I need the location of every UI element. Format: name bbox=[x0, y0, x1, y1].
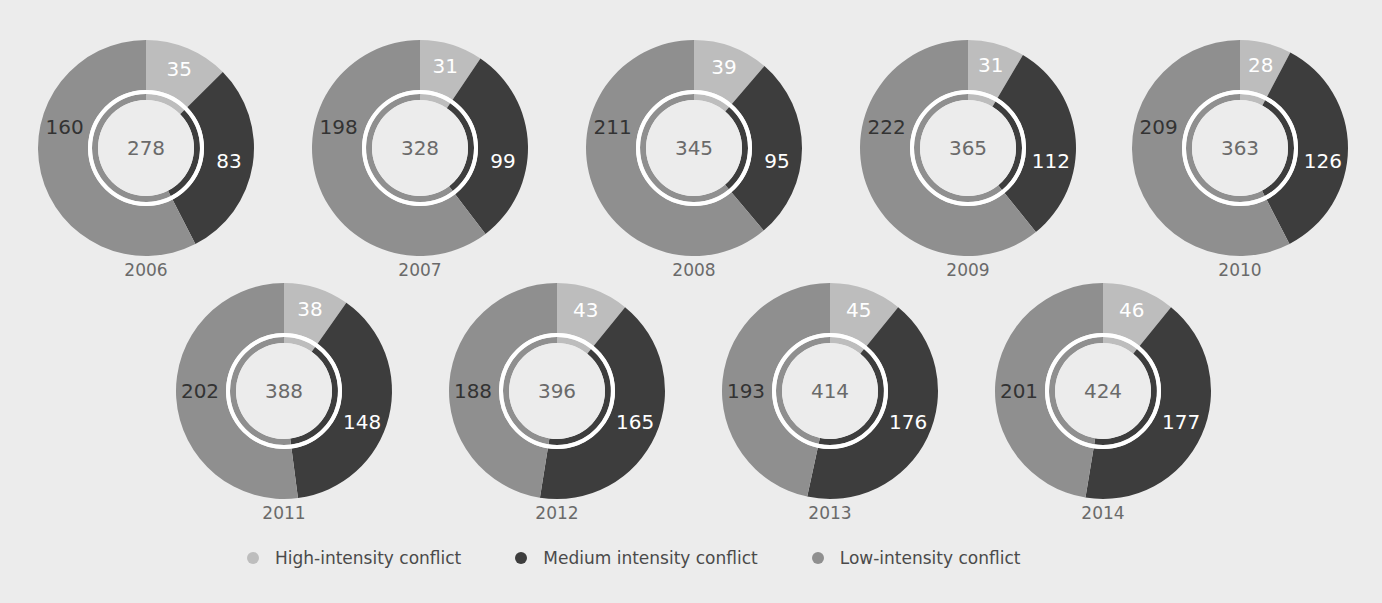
donut-total: 424 bbox=[1084, 379, 1122, 403]
donut-chart-2006: 27835831602006 bbox=[38, 0, 254, 290]
label-medium: 165 bbox=[616, 410, 654, 434]
label-medium: 176 bbox=[889, 410, 927, 434]
label-medium: 99 bbox=[490, 149, 515, 173]
donut-total: 328 bbox=[401, 136, 439, 160]
label-low: 222 bbox=[868, 115, 906, 139]
year-label: 2010 bbox=[1132, 260, 1348, 280]
label-low: 160 bbox=[46, 115, 84, 139]
donut-chart-2008: 34539952112008 bbox=[586, 0, 802, 290]
donut-chart-2012: 396431651882012 bbox=[449, 283, 665, 533]
year-label: 2014 bbox=[995, 503, 1211, 523]
donut-total: 363 bbox=[1221, 136, 1259, 160]
label-medium: 126 bbox=[1304, 149, 1342, 173]
legend-label-high: High-intensity conflict bbox=[275, 548, 461, 568]
label-high: 31 bbox=[432, 54, 457, 78]
year-label: 2011 bbox=[176, 503, 392, 523]
label-high: 38 bbox=[297, 297, 322, 321]
donut-total: 388 bbox=[265, 379, 303, 403]
donut-total: 278 bbox=[127, 136, 165, 160]
donut-svg: 3283199198 bbox=[312, 40, 528, 256]
chart-legend: High-intensity conflict Medium intensity… bbox=[247, 548, 1074, 568]
label-low: 188 bbox=[454, 379, 492, 403]
donut-chart-2010: 363281262092010 bbox=[1132, 0, 1348, 290]
year-label: 2009 bbox=[860, 260, 1076, 280]
label-low: 198 bbox=[320, 115, 358, 139]
label-medium: 112 bbox=[1032, 149, 1070, 173]
donut-chart-2009: 365311122222009 bbox=[860, 0, 1076, 290]
label-medium: 95 bbox=[764, 149, 789, 173]
donut-svg: 2783583160 bbox=[38, 40, 254, 256]
label-high: 45 bbox=[846, 298, 871, 322]
label-high: 31 bbox=[978, 53, 1003, 77]
label-low: 193 bbox=[727, 379, 765, 403]
donut-chart-2011: 388381482022011 bbox=[176, 283, 392, 533]
legend-item-low: Low-intensity conflict bbox=[812, 548, 1021, 568]
donut-total: 396 bbox=[538, 379, 576, 403]
label-medium: 148 bbox=[343, 410, 381, 434]
donut-svg: 38838148202 bbox=[176, 283, 392, 499]
donut-svg: 36328126209 bbox=[1132, 40, 1348, 256]
label-low: 202 bbox=[181, 379, 219, 403]
donut-svg: 39643165188 bbox=[449, 283, 665, 499]
donut-chart-2014: 424461772012014 bbox=[995, 283, 1211, 533]
legend-item-high: High-intensity conflict bbox=[247, 548, 461, 568]
label-medium: 177 bbox=[1162, 410, 1200, 434]
label-low: 201 bbox=[1000, 379, 1038, 403]
label-low: 211 bbox=[594, 115, 632, 139]
legend-swatch-medium-icon bbox=[515, 552, 527, 564]
legend-swatch-low-icon bbox=[812, 552, 824, 564]
year-label: 2007 bbox=[312, 260, 528, 280]
label-low: 209 bbox=[1140, 115, 1178, 139]
donut-chart-2013: 414451761932013 bbox=[722, 283, 938, 533]
donut-svg: 41445176193 bbox=[722, 283, 938, 499]
label-high: 28 bbox=[1248, 53, 1273, 77]
donut-svg: 42446177201 bbox=[995, 283, 1211, 499]
label-medium: 83 bbox=[216, 149, 241, 173]
donut-svg: 3453995211 bbox=[586, 40, 802, 256]
label-high: 43 bbox=[573, 298, 598, 322]
donut-total: 414 bbox=[811, 379, 849, 403]
year-label: 2013 bbox=[722, 503, 938, 523]
label-high: 35 bbox=[166, 57, 191, 81]
label-high: 39 bbox=[711, 55, 736, 79]
legend-item-medium: Medium intensity conflict bbox=[515, 548, 757, 568]
donut-total: 365 bbox=[949, 136, 987, 160]
legend-label-low: Low-intensity conflict bbox=[840, 548, 1021, 568]
year-label: 2006 bbox=[38, 260, 254, 280]
year-label: 2012 bbox=[449, 503, 665, 523]
legend-swatch-high-icon bbox=[247, 552, 259, 564]
donut-svg: 36531112222 bbox=[860, 40, 1076, 256]
donut-chart-2007: 32831991982007 bbox=[312, 0, 528, 290]
year-label: 2008 bbox=[586, 260, 802, 280]
label-high: 46 bbox=[1119, 298, 1144, 322]
legend-label-medium: Medium intensity conflict bbox=[543, 548, 757, 568]
donut-total: 345 bbox=[675, 136, 713, 160]
